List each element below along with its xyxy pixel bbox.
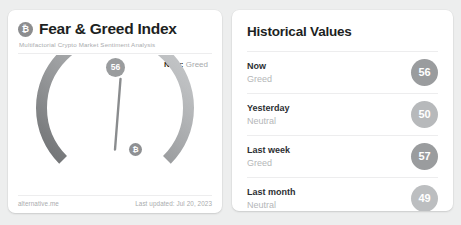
fear-greed-gauge-card: ₿ Fear & Greed Index Multifactorial Cryp… — [8, 10, 222, 213]
gauge-area: 56 ₿ — [18, 55, 212, 213]
classification-label: Greed — [247, 158, 290, 168]
source-link[interactable]: alternative.me — [18, 200, 59, 207]
classification-label: Greed — [247, 74, 272, 84]
value-badge: 50 — [411, 101, 438, 128]
brand-header: ₿ Fear & Greed Index — [18, 20, 212, 38]
classification-label: Neutral — [247, 116, 290, 126]
value-badge: 56 — [411, 59, 438, 86]
historical-values-title: Historical Values — [247, 24, 438, 39]
app-root: ₿ Fear & Greed Index Multifactorial Cryp… — [0, 0, 461, 225]
classification-label: Neutral — [247, 200, 296, 210]
bitcoin-logo-icon: ₿ — [18, 22, 33, 37]
last-updated-text: Last updated: Jul 20, 2023 — [135, 200, 212, 207]
value-badge: 57 — [411, 143, 438, 170]
list-item[interactable]: Yesterday Neutral 50 — [247, 93, 438, 135]
header-divider — [18, 53, 212, 54]
page-subtitle: Multifactorial Crypto Market Sentiment A… — [19, 41, 212, 48]
gauge-needle — [115, 79, 121, 150]
page-title: Fear & Greed Index — [39, 20, 177, 38]
period-label: Yesterday — [247, 103, 290, 113]
list-item[interactable]: Last month Neutral 49 — [247, 177, 438, 211]
period-label: Last week — [247, 145, 290, 155]
period-label: Now — [247, 61, 272, 71]
footer-divider — [18, 195, 212, 196]
value-badge: 49 — [411, 185, 438, 211]
period-label: Last month — [247, 187, 296, 197]
gauge-hub-icon: ₿ — [129, 143, 142, 156]
historical-values-card: Historical Values Now Greed 56 Yesterday… — [232, 10, 453, 211]
gauge-value-badge: 56 — [106, 58, 125, 77]
list-item[interactable]: Now Greed 56 — [247, 51, 438, 93]
gauge-footer: alternative.me Last updated: Jul 20, 202… — [18, 195, 212, 207]
list-item[interactable]: Last week Greed 57 — [247, 135, 438, 177]
